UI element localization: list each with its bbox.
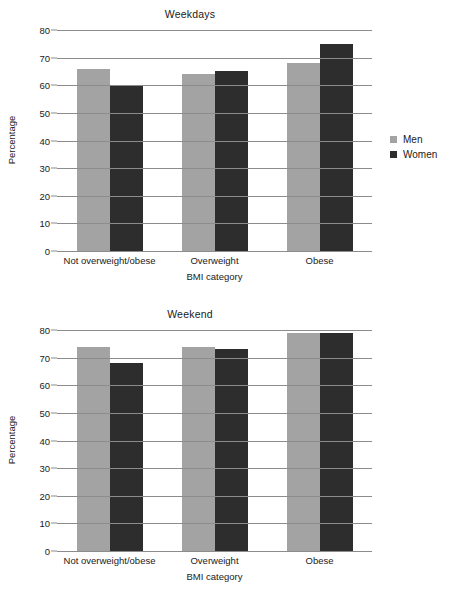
chart-title-weekdays: Weekdays: [0, 8, 380, 20]
y-tick-mark-20: [51, 495, 57, 496]
y-tick-mark-30: [51, 468, 57, 469]
y-tick-label-20: 20: [39, 190, 50, 201]
legend-swatch-women-icon: [390, 151, 397, 158]
legend-swatch-men-icon: [390, 136, 397, 143]
y-axis-title-weekend: Percentage: [6, 416, 17, 465]
y-tick-label-30: 30: [39, 463, 50, 474]
y-tick-label-80: 80: [39, 325, 50, 336]
y-tick-label-70: 70: [39, 52, 50, 63]
x-tick-label-0: Not overweight/obese: [64, 555, 156, 566]
y-tick-label-20: 20: [39, 490, 50, 501]
x-axis-title-weekend: BMI category: [57, 571, 372, 582]
bar-men-1: [182, 347, 215, 551]
x-tick-label-1: Overweight: [190, 555, 238, 566]
y-tick-mark-50: [51, 112, 57, 113]
figure-two-panel-bar-charts: Weekdays Percentage 01020304050607080 No…: [0, 0, 457, 599]
y-tick-mark-50: [51, 412, 57, 413]
gridline-80: [57, 30, 372, 31]
gridline-60: [57, 85, 372, 86]
gridline-40: [57, 441, 372, 442]
y-tick-label-50: 50: [39, 407, 50, 418]
x-tick-label-2: Obese: [306, 555, 334, 566]
plot-area-weekend: 01020304050607080: [57, 330, 372, 551]
legend-item-women: Women: [390, 147, 457, 162]
y-tick-mark-40: [51, 140, 57, 141]
legend-label-men: Men: [403, 134, 422, 145]
y-tick-mark-0: [51, 251, 57, 252]
y-tick-label-40: 40: [39, 135, 50, 146]
y-tick-mark-60: [51, 85, 57, 86]
y-tick-mark-70: [51, 357, 57, 358]
gridline-20: [57, 196, 372, 197]
gridline-40: [57, 141, 372, 142]
y-tick-mark-10: [51, 523, 57, 524]
bar-women-2: [320, 333, 353, 551]
y-axis-title-weekdays: Percentage: [6, 116, 17, 165]
x-tick-label-0: Not overweight/obese: [64, 255, 156, 266]
gridline-30: [57, 168, 372, 169]
bar-men-2: [287, 333, 320, 551]
gridline-10: [57, 223, 372, 224]
legend-label-women: Women: [403, 149, 437, 160]
gridline-20: [57, 496, 372, 497]
chart-panel-weekend: Weekend Percentage 01020304050607080 Not…: [0, 300, 457, 599]
bar-women-2: [320, 44, 353, 251]
y-tick-label-70: 70: [39, 352, 50, 363]
gridline-30: [57, 468, 372, 469]
y-tick-label-60: 60: [39, 380, 50, 391]
y-tick-label-0: 0: [45, 246, 50, 257]
y-tick-mark-40: [51, 440, 57, 441]
y-tick-mark-30: [51, 168, 57, 169]
y-tick-label-10: 10: [39, 518, 50, 529]
gridline-70: [57, 58, 372, 59]
plot-area-weekdays: 01020304050607080: [57, 30, 372, 251]
bar-women-1: [215, 349, 248, 551]
y-tick-mark-80: [51, 330, 57, 331]
gridline-50: [57, 413, 372, 414]
y-tick-mark-70: [51, 57, 57, 58]
y-tick-label-60: 60: [39, 80, 50, 91]
y-tick-mark-0: [51, 551, 57, 552]
gridline-0: [57, 551, 372, 552]
legend-weekdays: Men Women: [390, 132, 457, 162]
bar-men-1: [182, 74, 215, 251]
y-tick-label-50: 50: [39, 107, 50, 118]
x-tick-label-2: Obese: [306, 255, 334, 266]
y-tick-label-30: 30: [39, 163, 50, 174]
x-axis-title-weekdays: BMI category: [57, 271, 372, 282]
gridline-0: [57, 251, 372, 252]
y-tick-label-40: 40: [39, 435, 50, 446]
y-tick-label-0: 0: [45, 546, 50, 557]
gridline-70: [57, 358, 372, 359]
chart-panel-weekdays: Weekdays Percentage 01020304050607080 No…: [0, 0, 457, 299]
legend-item-men: Men: [390, 132, 457, 147]
y-tick-mark-60: [51, 385, 57, 386]
x-tick-label-1: Overweight: [190, 255, 238, 266]
y-tick-label-80: 80: [39, 25, 50, 36]
y-tick-label-10: 10: [39, 218, 50, 229]
bar-men-0: [77, 347, 110, 551]
y-tick-mark-20: [51, 195, 57, 196]
gridline-80: [57, 330, 372, 331]
gridline-10: [57, 523, 372, 524]
chart-title-weekend: Weekend: [0, 308, 380, 320]
y-tick-mark-10: [51, 223, 57, 224]
gridline-60: [57, 385, 372, 386]
gridline-50: [57, 113, 372, 114]
y-tick-mark-80: [51, 30, 57, 31]
